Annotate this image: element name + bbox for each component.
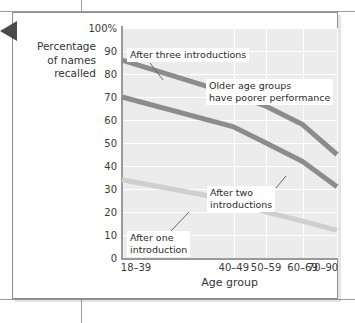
- annotation-after-one-introduction: After oneintroduction: [127, 231, 190, 257]
- y-axis-title-line-1: Percentage: [18, 40, 96, 54]
- series-layer: [122, 28, 337, 258]
- y-tick-label: 40: [104, 161, 117, 172]
- annotation-text-line: After three introductions: [130, 49, 246, 61]
- series-line: [122, 97, 337, 187]
- annotation-after-two-introductions: After twointroductions: [207, 186, 275, 212]
- annotation-text-line: After two: [210, 187, 272, 199]
- x-axis-title: Age group: [122, 276, 337, 289]
- y-tick-label: 20: [104, 207, 117, 218]
- x-tick-label: 50–59: [251, 262, 281, 273]
- annotation-text-line: introduction: [130, 244, 187, 256]
- y-tick-label: 30: [104, 184, 117, 195]
- page-rule-bottom: [0, 299, 355, 300]
- x-axis-line: [121, 258, 338, 260]
- y-tick-label: 90: [104, 46, 117, 57]
- y-tick-label: 80: [104, 69, 117, 80]
- y-tick-label: 50: [104, 138, 117, 149]
- page-rule-vertical-bottom: [81, 299, 82, 323]
- y-axis-title: Percentage of names recalled: [18, 40, 96, 81]
- plot-area: 0102030405060708090100% 18–3940–4950–596…: [122, 28, 337, 258]
- y-tick-label: 0: [111, 253, 117, 264]
- left-pointing-triangle-icon: [0, 21, 17, 41]
- gridline-vertical: [337, 28, 338, 258]
- x-tick-label: 40–49: [219, 262, 249, 273]
- annotation-text-line: Older age groups: [209, 80, 330, 92]
- annotation-after-three-introductions: After three introductions: [127, 48, 249, 62]
- annotation-older-age-groups: Older age groupshave poorer performance: [206, 79, 333, 105]
- annotation-text-line: After one: [130, 232, 187, 244]
- x-tick-label: 70–90: [308, 262, 338, 273]
- y-tick-label: 100%: [88, 23, 117, 34]
- y-tick-label: 60: [104, 115, 117, 126]
- annotation-text-line: have poorer performance: [209, 92, 330, 104]
- page-rule-vertical-top: [81, 0, 82, 12]
- figure-root: Percentage of names recalled 01020304050…: [0, 0, 355, 323]
- annotation-text-line: introductions: [210, 199, 272, 211]
- y-axis-title-line-2: of names: [18, 54, 96, 68]
- x-tick-label: 18–39: [121, 262, 151, 273]
- y-axis-title-line-3: recalled: [18, 67, 96, 81]
- y-tick-label: 10: [104, 230, 117, 241]
- y-tick-label: 70: [104, 92, 117, 103]
